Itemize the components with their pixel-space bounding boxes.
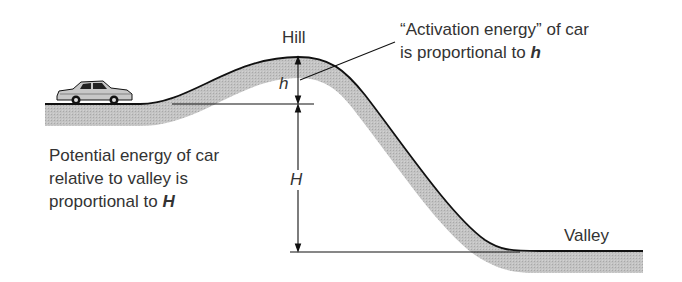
activation-energy-line2-text: is proportional to — [400, 43, 530, 62]
valley-label: Valley — [564, 226, 610, 245]
h-dimension-arrow — [296, 57, 301, 103]
activation-energy-line2: is proportional to h — [400, 43, 541, 62]
potential-energy-line3: proportional to H — [49, 192, 175, 211]
hill-label: Hill — [282, 28, 306, 47]
potential-energy-line1: Potential energy of car — [49, 146, 219, 165]
potential-energy-line3-text: proportional to — [49, 192, 162, 211]
car-icon — [57, 81, 132, 105]
activation-energy-line1: “Activation energy” of car — [400, 20, 589, 39]
activation-energy-symbol: h — [530, 43, 540, 62]
h-symbol-label: h — [279, 74, 288, 93]
potential-energy-line2: relative to valley is — [49, 169, 188, 188]
ground-band — [45, 57, 643, 273]
H-symbol-label: H — [290, 170, 303, 189]
energy-landscape-diagram: Hill h H “Activation energy” of car is p… — [0, 0, 682, 282]
potential-energy-symbol: H — [162, 192, 175, 211]
